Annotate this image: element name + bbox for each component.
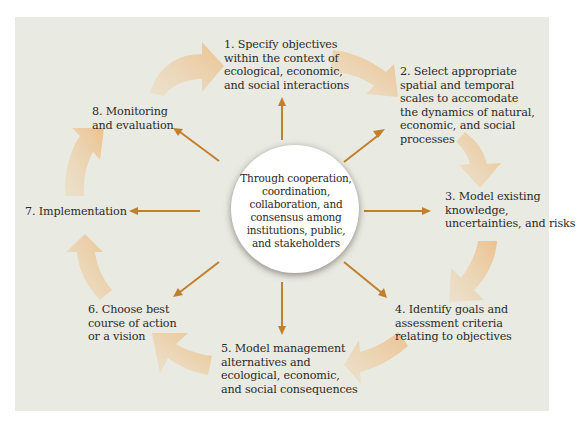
step-1-label: 1. Specify objectives within the context… [224,38,349,92]
spoke-arrow-to-step-8-icon [173,128,219,161]
step-4-label: 4. Identify goals and assessment criteri… [395,303,512,344]
spoke-arrow-to-step-4-icon [344,262,387,298]
center-hub-text: Through cooperation, coordination, colla… [232,172,360,251]
spoke-arrow-to-step-2-icon [344,129,385,162]
spoke-arrow-to-step-6-icon [173,262,219,297]
step-2-label: 2. Select appropriate spatial and tempor… [400,65,535,147]
step-7-label: 7. Implementation [25,205,127,219]
spoke-arrow-to-step-7-icon [129,207,200,215]
step-3-label: 3. Model existing knowledge, uncertainti… [445,190,575,231]
step-5-label: 5. Model management alternatives and eco… [221,342,358,396]
spoke-arrow-to-step-1-icon [278,97,286,140]
step-6-label: 6. Choose best course of action or a vis… [88,303,176,344]
spoke-arrow-to-step-5-icon [278,282,286,335]
step-8-label: 8. Monitoring and evaluation [92,105,174,132]
spoke-arrow-to-step-3-icon [364,207,431,215]
